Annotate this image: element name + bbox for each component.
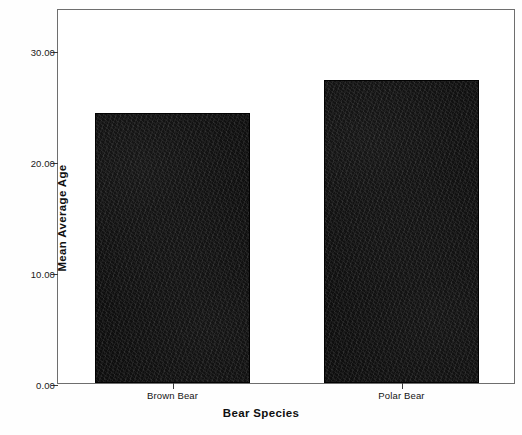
y-axis-tick-label: 20.00	[31, 158, 55, 169]
bar-polar-bear	[324, 80, 479, 383]
x-axis-tick-label: Brown Bear	[147, 390, 198, 401]
bar-chart: 30.00 20.00 10.00 0.00 Brown Bear Polar …	[0, 0, 522, 435]
x-axis-title: Bear Species	[0, 407, 522, 419]
bar-brown-bear	[95, 113, 250, 383]
plot-area: 30.00 20.00 10.00 0.00 Brown Bear Polar …	[57, 9, 515, 384]
x-axis-tick-label: Polar Bear	[378, 390, 424, 401]
y-axis-tick-label: 30.00	[31, 47, 55, 58]
y-axis-title: Mean Average Age	[56, 164, 68, 271]
x-axis-tick-mark	[402, 383, 403, 389]
y-axis-tick-label: 0.00	[36, 380, 55, 391]
x-axis-tick-mark	[173, 383, 174, 389]
y-axis-tick-label: 10.00	[31, 269, 55, 280]
